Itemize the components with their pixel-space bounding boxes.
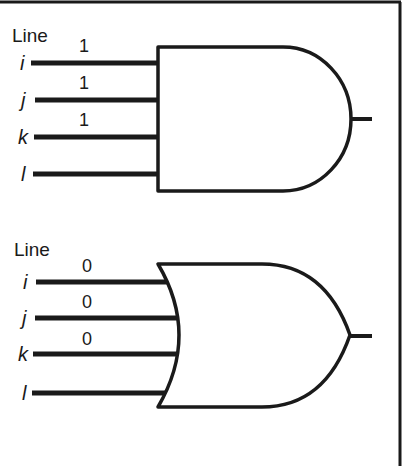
logic-gate-diagram: Line i j k l 1 1 1 Line i j k l 0 0 0	[0, 0, 402, 466]
or-var-label-k: k	[18, 343, 29, 365]
and-gate-group: Line i j k l 1 1 1	[12, 25, 372, 191]
or-bit-value-k: 0	[82, 329, 92, 349]
or-gate-group: Line i j k l 0 0 0	[14, 239, 372, 407]
and-var-label-i: i	[20, 52, 25, 74]
and-bit-value-j: 1	[79, 73, 89, 93]
or-bit-value-i: 0	[82, 256, 92, 276]
and-var-label-k: k	[18, 126, 29, 148]
or-line-heading: Line	[14, 239, 50, 260]
or-var-label-l: l	[22, 382, 27, 404]
and-bit-value-i: 1	[79, 36, 89, 56]
and-var-label-l: l	[21, 163, 26, 185]
or-bit-value-j: 0	[82, 292, 92, 312]
and-line-heading: Line	[12, 25, 48, 46]
or-var-label-i: i	[23, 271, 28, 293]
or-var-label-j: j	[19, 307, 27, 329]
or-gate-icon	[158, 264, 350, 407]
and-gate-icon	[158, 47, 351, 191]
and-bit-value-k: 1	[79, 110, 89, 130]
and-var-label-j: j	[18, 89, 26, 111]
